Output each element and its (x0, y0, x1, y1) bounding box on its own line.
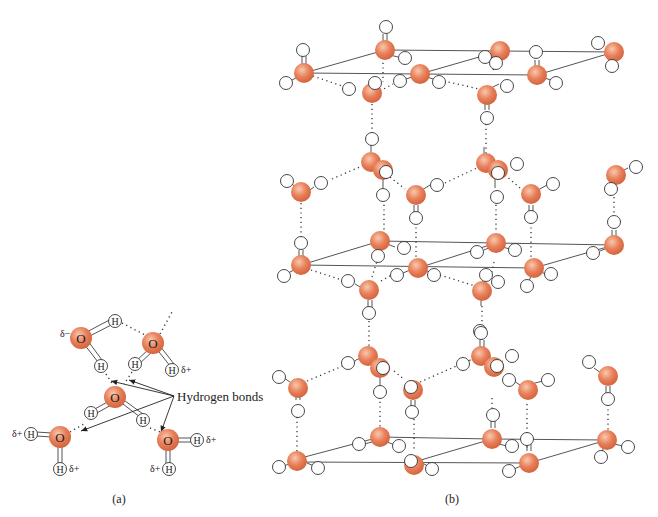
hydrogen-label: H (27, 429, 34, 440)
oxygen-label: O (148, 336, 157, 351)
lattice-lines (297, 50, 614, 463)
delta-minus-label: δ− (60, 328, 71, 339)
hydrogen-label: H (165, 464, 172, 475)
hydrogen-label: H (87, 408, 94, 419)
hydrogen-label: H (131, 359, 138, 370)
hydrogen-label: H (193, 435, 200, 446)
water-ice-diagram: Hydrogen bonds O O O O O (0, 0, 658, 517)
caption-a: (a) (112, 492, 125, 506)
hydrogen-label: H (97, 361, 104, 372)
caption-b: (b) (445, 492, 459, 506)
panel-b: (b) (273, 21, 643, 507)
oxygen-label: O (55, 430, 64, 445)
oxygen-label: O (76, 331, 85, 346)
delta-plus-label: δ+ (181, 364, 192, 375)
oxygen-label: O (163, 433, 172, 448)
oxygen-atoms (287, 40, 626, 475)
delta-plus-label: δ+ (150, 463, 161, 474)
hydrogen-bonds-label: Hydrogen bonds (177, 389, 263, 404)
hydrogen-atoms (273, 21, 643, 478)
hydrogen-label: H (111, 316, 118, 327)
oxygen-label: O (110, 390, 119, 405)
covalent-bonds (281, 34, 628, 469)
hydrogen-label: H (168, 365, 175, 376)
hydrogen-label: H (56, 464, 63, 475)
delta-plus-label: δ+ (12, 428, 23, 439)
hydrogen-label: H (139, 415, 146, 426)
hydrogen-bond-lines (297, 55, 614, 452)
panel-a: Hydrogen bonds O O O O O (12, 312, 263, 506)
delta-plus-label: δ+ (69, 463, 80, 474)
delta-plus-label: δ+ (206, 434, 217, 445)
